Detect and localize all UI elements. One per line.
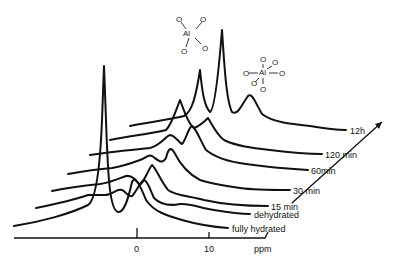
svg-text:Al: Al	[183, 29, 190, 38]
trace-12h	[130, 30, 346, 130]
svg-text:O: O	[279, 69, 285, 78]
label-12h: 12h	[350, 126, 365, 136]
axis-unit: ppm	[254, 244, 272, 254]
trace-60min	[90, 126, 308, 170]
octahedral-al-structure: Al O O O O O O	[243, 55, 285, 94]
svg-text:O: O	[243, 69, 249, 78]
tetrahedral-al-structure: Al O O O O	[176, 15, 208, 56]
svg-text:O: O	[260, 55, 266, 64]
nmr-waterfall-chart: 12h 120 min 60min 30 min 15 min dehydrat…	[0, 0, 396, 262]
svg-text:O: O	[260, 85, 266, 94]
tick-10: 10	[204, 244, 214, 254]
svg-text:O: O	[202, 44, 208, 53]
time-arrow-icon	[292, 122, 382, 203]
trace-labels: 12h 120 min 60min 30 min 15 min dehydrat…	[232, 126, 365, 234]
label-30min: 30 min	[293, 186, 320, 196]
svg-text:Al: Al	[259, 68, 266, 77]
tick-0: 0	[134, 244, 139, 254]
traces	[14, 30, 346, 228]
trace-120min	[110, 100, 322, 154]
svg-text:O: O	[272, 58, 278, 67]
label-dehydrated: dehydrated	[254, 210, 299, 220]
label-fully-hydrated: fully hydrated	[232, 224, 286, 234]
svg-text:O: O	[181, 47, 187, 56]
x-axis	[14, 228, 268, 238]
